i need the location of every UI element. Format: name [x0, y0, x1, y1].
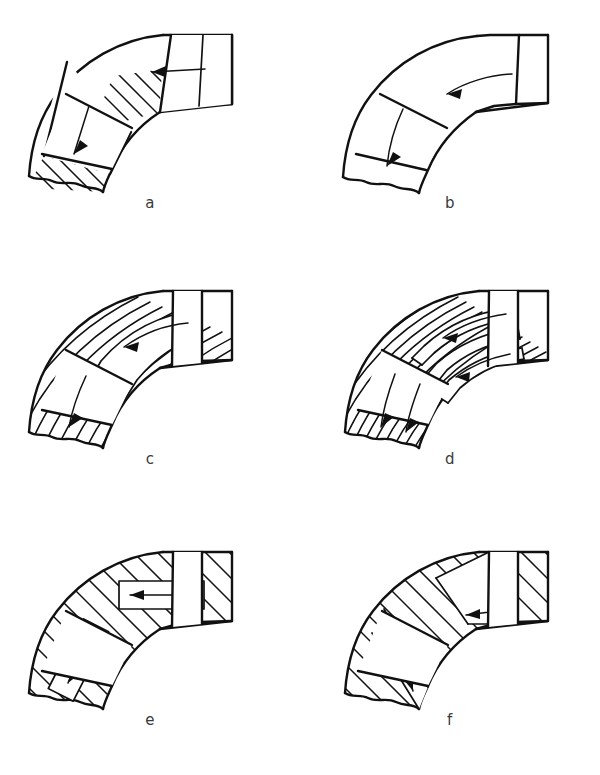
panel-label-d: d [300, 450, 600, 468]
panel-a-drawing [0, 6, 300, 221]
end-cut-b [516, 35, 519, 104]
channel-a-upper [160, 35, 232, 112]
break-line-f [345, 693, 419, 709]
panel-label-f: f [300, 711, 600, 729]
panel-e-drawing [0, 523, 300, 738]
panel-e: e [0, 523, 300, 775]
panel-label-b: b [300, 194, 600, 212]
channel-e-end [172, 552, 202, 627]
break-line-c [29, 432, 103, 448]
panel-label-c: c [0, 450, 300, 468]
channel-d-end [488, 291, 518, 366]
panel-f: f [300, 523, 600, 775]
panel-a: a [0, 6, 300, 264]
panel-b: b [300, 6, 600, 264]
channel-c-end [172, 291, 202, 366]
panel-c: c [0, 262, 300, 520]
panel-label-a: a [0, 194, 300, 212]
panel-b-drawing [300, 6, 600, 221]
figure-sheet: a [0, 0, 600, 775]
panel-f-drawing [300, 523, 600, 738]
panel-label-e: e [0, 711, 300, 729]
panel-d-drawing [300, 262, 600, 477]
panel-c-drawing [0, 262, 300, 477]
channel-f-end [488, 552, 518, 627]
flow-arrow-b-upper [447, 74, 512, 99]
break-line-b [343, 177, 419, 193]
panel-d: d [300, 262, 600, 520]
hatch-region-d [302, 287, 586, 537]
hatch-region-c [0, 287, 294, 522]
